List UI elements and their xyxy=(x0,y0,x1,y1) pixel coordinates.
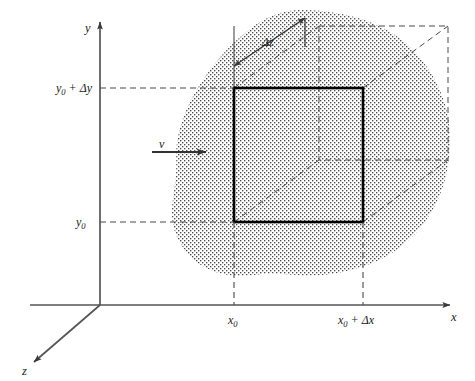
y-axis-label: y xyxy=(83,21,91,35)
fluid-region xyxy=(172,10,450,276)
x-axis-label: x xyxy=(450,310,457,324)
velocity-label: v xyxy=(159,137,165,151)
control-volume-diagram: Δz v y x z y0 + Δy y0 x0 x0 xyxy=(0,0,475,381)
figure-container: Δz v y x z y0 + Δy y0 x0 x0 xyxy=(0,0,475,381)
tick-label-x0: x0 xyxy=(227,313,238,329)
depth-label: Δz xyxy=(261,35,274,49)
tick-label-y0-plus-dy: y0 + Δy xyxy=(55,81,93,97)
tick-label-y0: y0 xyxy=(75,215,86,231)
z-axis-label: z xyxy=(21,364,27,378)
tick-label-x0-plus-dx: x0 + Δx xyxy=(337,313,375,329)
